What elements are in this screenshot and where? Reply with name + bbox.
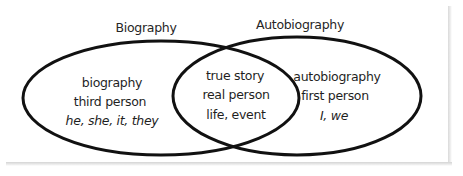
autobiography-set-title: Autobiography [256,17,344,32]
biography-set-title: Biography [116,20,177,35]
biography-item-1: biography [82,75,142,90]
overlap-item-3: life, event [206,107,265,122]
biography-item-2: third person [74,94,146,109]
biography-item-3: he, she, it, they [66,113,159,128]
overlap-item-2: real person [202,87,269,102]
autobiography-item-1: autobiography [293,69,380,84]
autobiography-item-2: first person [301,88,369,103]
autobiography-item-3: I, we [320,108,348,123]
venn-diagram-card: Biography Autobiography biography third … [0,0,448,162]
overlap-item-1: true story [206,68,264,83]
